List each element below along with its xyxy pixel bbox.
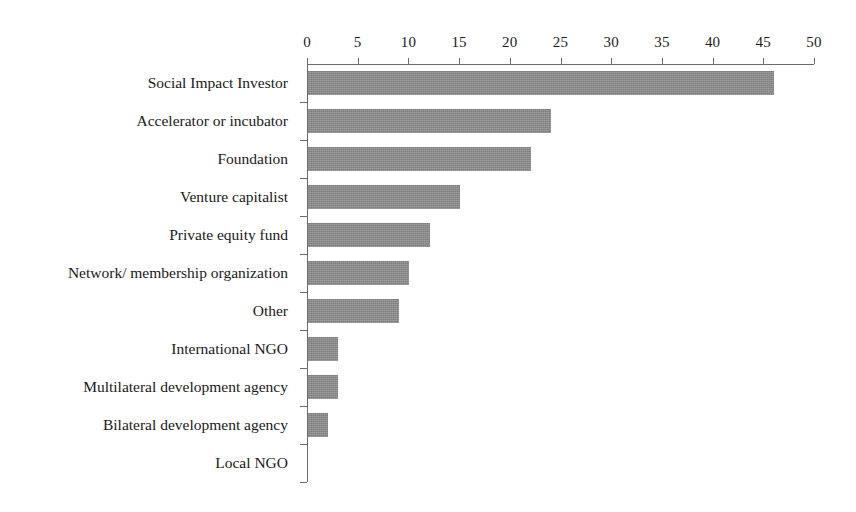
y-axis-tick [300,102,307,103]
y-axis-tick [300,406,307,407]
x-axis-tick [713,58,714,64]
y-axis-tick [300,444,307,445]
category-label: Venture capitalist [0,188,300,206]
x-axis-tick-label: 0 [303,34,311,50]
category-label: Multilateral development agency [0,378,300,396]
x-axis-tick [561,58,562,64]
x-axis-tick [611,58,612,64]
bar [308,109,551,133]
y-axis-tick [300,216,307,217]
bar [308,185,460,209]
category-label: Bilateral development agency [0,416,300,434]
bar [308,299,399,323]
x-axis-tick-label: 15 [451,34,466,50]
category-label: Private equity fund [0,226,300,244]
x-axis-tick [307,58,308,64]
horizontal-bar-chart: Social Impact InvestorAccelerator or inc… [0,0,856,512]
x-axis-tick-label: 5 [354,34,362,50]
bar [308,261,409,285]
bar [308,147,531,171]
category-label: Accelerator or incubator [0,112,300,130]
category-label: Local NGO [0,454,300,472]
x-axis-tick-label: 25 [553,34,568,50]
y-axis-tick [300,368,307,369]
bar [308,337,338,361]
y-axis-tick [300,292,307,293]
category-label: Network/ membership organization [0,264,300,282]
x-axis-line [307,64,814,65]
x-axis-tick [408,58,409,64]
y-axis-tick [300,178,307,179]
x-axis-tick-label: 20 [502,34,517,50]
x-axis-tick [459,58,460,64]
category-label: Foundation [0,150,300,168]
y-axis-tick [300,330,307,331]
x-axis-tick [662,58,663,64]
x-axis-tick-label: 40 [705,34,720,50]
bar [308,71,774,95]
bar [308,375,338,399]
x-axis-tick [358,58,359,64]
bar [308,223,430,247]
plot-area: 05101520253035404550 [307,64,814,482]
x-axis-tick [763,58,764,64]
y-axis-tick [300,140,307,141]
x-axis-tick-label: 35 [654,34,669,50]
category-axis-labels: Social Impact InvestorAccelerator or inc… [0,64,300,482]
category-label: Social Impact Investor [0,74,300,92]
y-axis-tick [300,482,307,483]
y-axis-tick [300,254,307,255]
x-axis-tick-label: 45 [756,34,771,50]
category-label: International NGO [0,340,300,358]
x-axis-tick-label: 50 [806,34,821,50]
x-axis-tick-label: 30 [603,34,618,50]
x-axis-tick [510,58,511,64]
x-axis-tick-label: 10 [401,34,416,50]
x-axis-tick [814,58,815,64]
bar [308,413,328,437]
category-label: Other [0,302,300,320]
